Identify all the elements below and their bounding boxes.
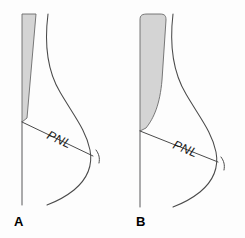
panel-letter-b: B: [136, 214, 145, 229]
pnl-label: PNL: [45, 128, 74, 151]
nipple-tick-mark: [96, 150, 99, 163]
figure-root: PNL A PNL B: [0, 0, 245, 238]
panel-letter-a: A: [14, 214, 24, 229]
nipple-tick-mark: [221, 157, 224, 170]
narrow-wedge-shape: [22, 14, 36, 122]
panel-a: PNL A: [0, 0, 122, 238]
wide-wedge-shape: [140, 14, 166, 131]
breast-contour-line: [47, 14, 91, 205]
breast-contour-line: [172, 14, 217, 207]
pnl-label: PNL: [171, 138, 200, 160]
panel-b: PNL B: [122, 0, 245, 238]
